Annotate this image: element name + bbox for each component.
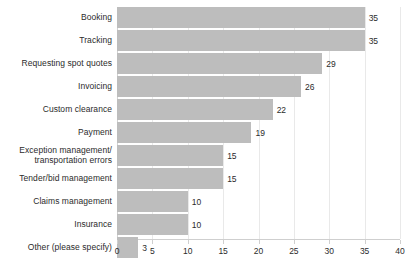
bar-value-label: 10 bbox=[192, 214, 201, 235]
bar bbox=[117, 99, 273, 120]
bar-row: Invoicing26 bbox=[0, 76, 409, 97]
x-tick-label-20: 20 bbox=[244, 246, 274, 256]
x-tick-label-40: 40 bbox=[385, 246, 409, 256]
tick-mark-35 bbox=[365, 240, 366, 244]
x-tick-label-25: 25 bbox=[279, 246, 309, 256]
tick-mark-10 bbox=[188, 240, 189, 244]
x-tick-label-10: 10 bbox=[173, 246, 203, 256]
category-label: Booking bbox=[0, 7, 112, 28]
category-label: Tracking bbox=[0, 30, 112, 51]
tick-mark-30 bbox=[329, 240, 330, 244]
bar bbox=[117, 168, 223, 189]
bar-row: Exception management/ transportation err… bbox=[0, 145, 409, 166]
category-label: Claims management bbox=[0, 191, 112, 212]
x-axis-tick-labels: 0510152025303540 bbox=[0, 246, 409, 262]
tick-mark-5 bbox=[152, 240, 153, 244]
category-label: Payment bbox=[0, 122, 112, 143]
tick-mark-40 bbox=[400, 240, 401, 244]
bar-rows: Booking35Tracking35Requesting spot quote… bbox=[0, 7, 409, 239]
bar-value-label: 26 bbox=[305, 76, 314, 97]
category-label: Custom clearance bbox=[0, 99, 112, 120]
bar bbox=[117, 53, 322, 74]
category-label: Invoicing bbox=[0, 76, 112, 97]
bar-row: Claims management10 bbox=[0, 191, 409, 212]
bar bbox=[117, 191, 188, 212]
tick-mark-15 bbox=[223, 240, 224, 244]
bar bbox=[117, 122, 251, 143]
category-label: Insurance bbox=[0, 214, 112, 235]
bar-value-label: 15 bbox=[227, 168, 236, 189]
bar-value-label: 29 bbox=[326, 53, 335, 74]
bar bbox=[117, 30, 365, 51]
tick-mark-25 bbox=[294, 240, 295, 244]
bar-row: Tender/bid management15 bbox=[0, 168, 409, 189]
bar-value-label: 10 bbox=[192, 191, 201, 212]
x-tick-label-15: 15 bbox=[208, 246, 238, 256]
bar bbox=[117, 214, 188, 235]
x-tick-label-0: 0 bbox=[102, 246, 132, 256]
bar-row: Requesting spot quotes29 bbox=[0, 53, 409, 74]
x-tick-label-30: 30 bbox=[314, 246, 344, 256]
bar bbox=[117, 145, 223, 166]
bar-value-label: 35 bbox=[369, 7, 378, 28]
bar-value-label: 19 bbox=[255, 122, 264, 143]
category-label: Tender/bid management bbox=[0, 168, 112, 189]
category-label: Exception management/ transportation err… bbox=[0, 145, 112, 166]
tick-mark-0 bbox=[117, 240, 118, 244]
bar-row: Custom clearance22 bbox=[0, 99, 409, 120]
bar bbox=[117, 76, 301, 97]
bar-value-label: 15 bbox=[227, 145, 236, 166]
x-tick-label-35: 35 bbox=[350, 246, 380, 256]
bar-row: Payment19 bbox=[0, 122, 409, 143]
bar-row: Tracking35 bbox=[0, 30, 409, 51]
bar-row: Insurance10 bbox=[0, 214, 409, 235]
bar-chart: Booking35Tracking35Requesting spot quote… bbox=[0, 0, 409, 268]
bar-row: Booking35 bbox=[0, 7, 409, 28]
tick-mark-20 bbox=[259, 240, 260, 244]
x-tick-label-5: 5 bbox=[137, 246, 167, 256]
bar-value-label: 35 bbox=[369, 30, 378, 51]
category-label: Requesting spot quotes bbox=[0, 53, 112, 74]
bar bbox=[117, 7, 365, 28]
bar-value-label: 22 bbox=[277, 99, 286, 120]
